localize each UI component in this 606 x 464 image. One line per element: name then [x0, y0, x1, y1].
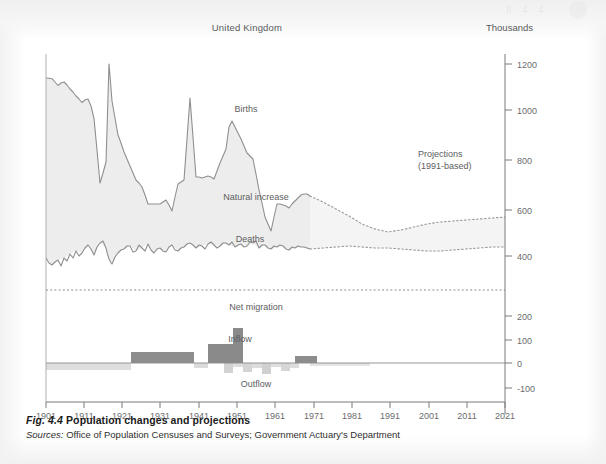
plot-area: 1200 1000 800 600 400 200 100 0	[18, 42, 590, 412]
outflow-bar	[310, 363, 370, 366]
deaths-label: Deaths	[236, 234, 265, 244]
page-corner-artifact-icon: 8 4 4	[502, 2, 598, 24]
y-tick-label: 0	[517, 359, 522, 369]
population-chart: 1200 1000 800 600 400 200 100 0	[18, 42, 590, 412]
figure-title-text: Population changes and projections	[66, 414, 250, 426]
y-axis-ticks: 1200 1000 800 600 400 200 100 0	[505, 60, 537, 394]
projections-label-line1: Projections	[418, 149, 463, 159]
figure-number: Fig. 4.4	[26, 414, 63, 426]
y-tick-label: -100	[517, 384, 535, 394]
outflow-bar	[281, 363, 290, 371]
outflow-bar	[262, 363, 271, 374]
sources-lead: Sources:	[26, 429, 64, 440]
outflow-label: Outflow	[241, 379, 272, 389]
natural-increase-label: Natural increase	[223, 192, 289, 202]
outflow-bar	[252, 363, 262, 368]
outflow-bar	[224, 363, 233, 373]
outflow-bar	[46, 363, 131, 370]
births-label: Births	[234, 104, 258, 114]
outflow-bar	[271, 363, 281, 367]
y-tick-label: 1200	[517, 60, 537, 70]
svg-text:4: 4	[538, 5, 544, 16]
inflow-bar	[208, 344, 233, 363]
outflow-bar	[194, 363, 208, 368]
y-tick-label: 200	[517, 312, 532, 322]
y-tick-label: 400	[517, 252, 532, 262]
sources-text: Office of Population Censuses and Survey…	[66, 429, 400, 440]
outflow-bar	[290, 363, 299, 368]
svg-text:4: 4	[522, 5, 528, 16]
y-tick-label: 800	[517, 156, 532, 166]
svg-text:8: 8	[506, 5, 512, 16]
y-tick-label: 1000	[517, 106, 537, 116]
inflow-bar	[131, 352, 194, 363]
y-axis-units-label: Thousands	[486, 22, 533, 33]
inflow-bar	[295, 356, 317, 363]
outflow-bar	[233, 363, 243, 367]
chart-region-title: United Kingdom	[18, 22, 476, 33]
inflow-label: Inflow	[228, 334, 252, 344]
scanned-page: 8 4 4 United Kingdom Thousands	[0, 0, 606, 464]
y-tick-label: 600	[517, 206, 532, 216]
projections-label-line2: (1991-based)	[418, 161, 472, 171]
figure-area: United Kingdom Thousands	[18, 22, 590, 412]
outflow-bar	[243, 363, 252, 372]
net-migration-label: Net migration	[229, 302, 283, 312]
y-tick-label: 100	[517, 336, 532, 346]
figure-sources: Sources: Office of Population Censuses a…	[26, 429, 586, 440]
figure-caption-title: Fig. 4.4 Population changes and projecti…	[26, 414, 586, 426]
figure-caption: Fig. 4.4 Population changes and projecti…	[26, 414, 586, 440]
